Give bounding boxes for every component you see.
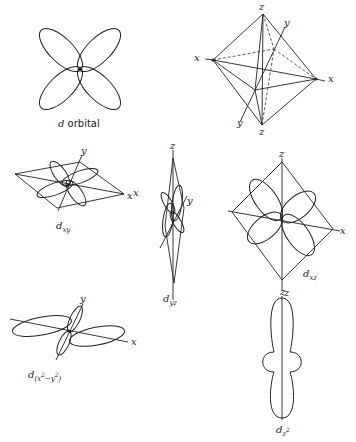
octahedron-x-left-label: x <box>194 53 200 63</box>
octahedron-y-bottom-label: y <box>237 118 243 128</box>
octahedron-x-right-label: x <box>328 74 334 84</box>
dyz-y-label: y <box>187 196 193 206</box>
dyz-x-label: x <box>133 188 139 198</box>
octahedron-z-bottom-label: z <box>259 127 264 137</box>
dxz-x-label: x <box>340 226 346 236</box>
dxz-caption: dxz <box>303 269 317 282</box>
dx2-y2-y-label: y <box>80 294 86 304</box>
dxy-caption: dxy <box>56 221 70 234</box>
dz2-caption: dz2 <box>276 425 290 438</box>
dx2-y2-caption: d(x2−y2) <box>28 370 61 383</box>
dxz-drawing <box>228 158 340 290</box>
d-orbital-drawing <box>33 22 128 117</box>
dz2-drawing <box>263 296 302 420</box>
dx2-y2-x-label: x <box>131 337 137 347</box>
dxy-drawing <box>15 155 124 211</box>
dx2-y2-drawing <box>10 304 128 360</box>
dyz-z-label: z <box>170 141 175 151</box>
dxz-z-top-label: z <box>279 149 284 159</box>
dxy-y-label: y <box>81 146 87 156</box>
octahedron-y-top-label: y <box>284 18 290 28</box>
dz2-z-label: z <box>284 288 289 298</box>
dyz-drawing <box>159 150 187 300</box>
octahedron-z-top-label: z <box>259 2 264 12</box>
octahedron-drawing <box>205 14 325 125</box>
dyz-caption: dyz <box>163 294 177 307</box>
dxy-x-label: x <box>127 191 133 201</box>
d-orbital-caption: d orbital <box>58 119 100 129</box>
